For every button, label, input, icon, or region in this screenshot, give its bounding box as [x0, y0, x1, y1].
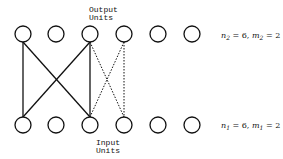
output-unit [82, 26, 98, 42]
output-unit [48, 26, 64, 42]
output-layer [15, 26, 200, 42]
input-unit [48, 117, 64, 133]
solid-connections [23, 42, 90, 117]
input-unit [116, 117, 132, 133]
output-unit [184, 26, 200, 42]
dotted-connections [90, 42, 124, 117]
output-label-line2: Units [89, 13, 113, 22]
input-unit [15, 117, 31, 133]
input-unit [150, 117, 166, 133]
input-label-line2: Units [96, 146, 120, 155]
network-diagram: Output Units Input Units n2 = 6, m2 = 2 … [0, 0, 283, 159]
output-layer-equation: n2 = 6, m2 = 2 [221, 31, 280, 41]
input-unit [184, 117, 200, 133]
output-unit [116, 26, 132, 42]
input-layer-equation: n1 = 6, m1 = 2 [221, 121, 280, 131]
output-unit [150, 26, 166, 42]
input-unit [82, 117, 98, 133]
output-unit [15, 26, 31, 42]
input-layer [15, 117, 200, 133]
